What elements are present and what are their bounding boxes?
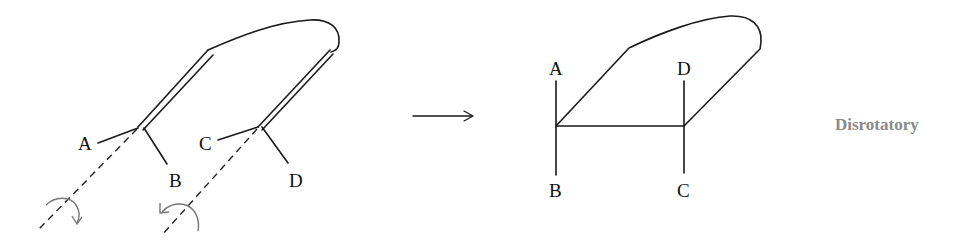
label-b-reactant: B [169, 170, 182, 191]
label-a-reactant: A [78, 133, 92, 154]
left-double-bond-line-1 [138, 50, 208, 127]
label-c-product: C [677, 180, 690, 201]
substituent-a-bond [98, 128, 138, 143]
counterclockwise-rotation-arrow-icon [160, 203, 199, 231]
label-c-reactant: C [199, 133, 212, 154]
reactant-backbone [208, 20, 339, 52]
reactant-molecule: A B C D [38, 20, 339, 235]
diagram-canvas: A B C D A B D C Disrotatory [0, 0, 973, 240]
label-d-product: D [677, 58, 691, 79]
left-double-bond-line-2 [143, 55, 213, 130]
right-double-bond-line-2 [262, 54, 333, 130]
product-ring-outline [556, 16, 761, 126]
label-b-product: B [549, 180, 562, 201]
label-a-product: A [549, 58, 563, 79]
product-molecule: A B D C [549, 16, 761, 201]
label-d-reactant: D [289, 170, 303, 191]
right-double-bond-line-1 [258, 50, 330, 127]
substituent-d-bond [262, 127, 288, 163]
reaction-arrow-icon [413, 111, 473, 121]
clockwise-rotation-arrow-icon [46, 198, 82, 224]
mode-caption: Disrotatory [835, 115, 919, 134]
substituent-c-bond [218, 127, 258, 140]
substituent-b-bond [144, 128, 167, 164]
